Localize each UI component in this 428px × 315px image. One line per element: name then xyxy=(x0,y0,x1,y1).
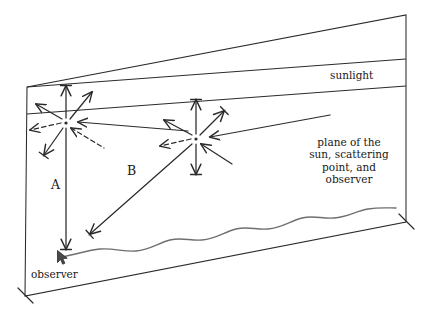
ray-up-left xyxy=(164,120,192,135)
plane-description-label: plane of thesun, scatteringpoint, andobs… xyxy=(303,136,395,186)
scatter-point-right-group xyxy=(90,100,232,234)
ray-up-right xyxy=(70,92,92,119)
plane-line-4: observer xyxy=(326,173,373,185)
sunlight-label: sunlight xyxy=(330,69,373,81)
plane-line-2: sun, scattering xyxy=(309,148,389,160)
ray-b-label: B xyxy=(127,164,136,179)
sunlight-band-lines xyxy=(27,59,406,114)
band-line-lower xyxy=(27,86,406,114)
ray-left-dashed xyxy=(160,139,191,146)
incoming-ray-right-point xyxy=(210,115,330,137)
plane-line-3: point, and xyxy=(322,161,376,173)
scatter-point-left-group xyxy=(30,86,104,249)
ray-down-right-dashed xyxy=(71,128,104,148)
incoming-sunlight-rays xyxy=(78,115,330,137)
ray-down-left xyxy=(44,128,63,155)
scatter-point-right-dot xyxy=(194,137,197,140)
observer-label: observer xyxy=(31,268,78,280)
plane-line-1: plane of the xyxy=(317,136,380,148)
ray-b-arrow xyxy=(90,144,192,234)
ray-down-right xyxy=(201,144,232,164)
ray-left-dashed xyxy=(30,123,61,130)
scatter-point-left-dot xyxy=(64,121,67,124)
observer-cursor-icon xyxy=(58,251,68,265)
ray-up-right xyxy=(200,111,224,135)
ray-a-label: A xyxy=(51,178,60,193)
